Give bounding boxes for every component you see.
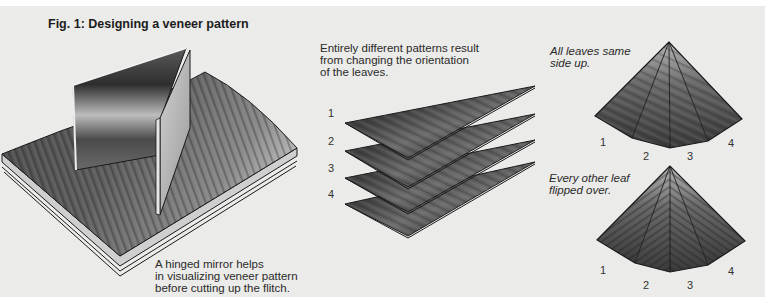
caption-line: A hinged mirror helps [155,258,298,270]
caption-line: Every other leaf [549,172,630,184]
leaf-label-2: 2 [328,135,334,147]
leaves-caption: Entirely different patterns result from … [320,42,479,78]
caption-line: from changing the orientation [320,54,479,66]
caption-line: All leaves same [550,45,631,57]
flitch-with-mirror-drawing [2,48,297,276]
caption-line: before cutting up the flitch. [155,282,298,294]
leaf-label-1: 1 [328,107,334,119]
caption-line: in visualizing veneer pattern [155,270,298,282]
leaf-label-3: 3 [328,162,334,174]
mirror-caption: A hinged mirror helps in visualizing ven… [155,258,298,294]
fan1-label-4: 4 [728,137,734,149]
fan2-label-2: 2 [643,279,649,291]
figure-title: Fig. 1: Designing a veneer pattern [48,17,249,31]
caption-line: of the leaves. [320,66,479,78]
caption-line: side up. [550,57,631,69]
caption-line: Entirely different patterns result [320,42,479,54]
stacked-leaves-drawing [345,86,535,238]
pattern-same-side-caption: All leaves same side up. [550,45,631,69]
fan1-label-2: 2 [643,150,649,162]
fan2-label-3: 3 [687,279,693,291]
pattern-flipped-caption: Every other leaf flipped over. [549,172,630,196]
fan2-label-4: 4 [728,265,734,277]
fan1-label-3: 3 [687,150,693,162]
leaf-label-4: 4 [328,188,334,200]
fan2-label-1: 1 [600,264,606,276]
caption-line: flipped over. [549,184,630,196]
fan1-label-1: 1 [600,136,606,148]
